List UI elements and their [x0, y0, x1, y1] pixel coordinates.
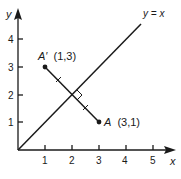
- label-a-coords: (3,1): [117, 116, 140, 128]
- x-tick-label-5: 5: [150, 155, 156, 166]
- label-a-prime-name: A′: [37, 50, 48, 62]
- line-label: y = x: [142, 8, 165, 19]
- right-angle-marker: [77, 90, 82, 100]
- y-tick-label-4: 4: [8, 34, 14, 45]
- point-a: [97, 120, 102, 125]
- label-a-prime-coords: (1,3): [53, 50, 76, 62]
- y-tick-label-3: 3: [8, 62, 14, 73]
- x-tick-label-4: 4: [122, 155, 128, 166]
- reflection-diagram: y x 1 2 3 4 5 1 2 3 4 y = x A′ (1,3) A (…: [0, 0, 181, 179]
- y-axis-label: y: [5, 8, 13, 20]
- line-y-equals-x: [18, 24, 141, 150]
- x-tick-label-1: 1: [42, 155, 48, 166]
- y-tick-label-2: 2: [8, 90, 14, 101]
- label-a-prime: A′ (1,3): [37, 50, 76, 62]
- x-tick-label-3: 3: [96, 155, 102, 166]
- y-tick-label-1: 1: [8, 117, 14, 128]
- x-tick-label-2: 2: [69, 155, 75, 166]
- label-a-name: A: [103, 116, 111, 128]
- label-a: A (3,1): [103, 116, 140, 128]
- point-a-prime: [43, 65, 48, 70]
- x-axis-label: x: [169, 155, 176, 167]
